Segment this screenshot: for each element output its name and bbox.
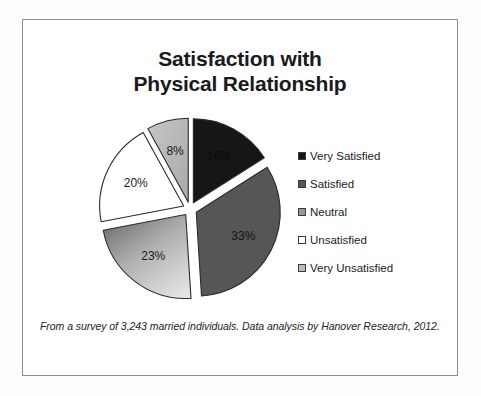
legend-swatch-icon bbox=[298, 208, 306, 216]
legend-swatch-icon bbox=[298, 236, 306, 244]
legend-swatch-icon bbox=[298, 152, 306, 160]
legend-item-label: Neutral bbox=[310, 206, 347, 218]
pie-slice-label: 16% bbox=[207, 149, 231, 163]
legend-swatch-icon bbox=[298, 264, 306, 272]
pie-slice-label: 20% bbox=[124, 176, 148, 190]
legend-item[interactable]: Satisfied bbox=[298, 170, 448, 198]
footnote-text: From a survey of 3,243 married individua… bbox=[40, 320, 444, 332]
legend-item[interactable]: Very Unsatisfied bbox=[298, 254, 448, 282]
pie-slices bbox=[100, 118, 281, 298]
title-line-1: Satisfaction with bbox=[158, 47, 321, 70]
legend-item-label: Unsatisfied bbox=[310, 234, 367, 246]
legend-item-label: Satisfied bbox=[310, 178, 354, 190]
pie-slice-label: 23% bbox=[141, 249, 165, 263]
legend-item[interactable]: Unsatisfied bbox=[298, 226, 448, 254]
pie-chart-svg: 16%33%23%20%8% bbox=[90, 112, 290, 307]
legend-item-label: Very Satisfied bbox=[310, 150, 380, 162]
legend-swatch-icon bbox=[298, 180, 306, 188]
pie-chart: 16%33%23%20%8% bbox=[90, 112, 290, 307]
pie-slice-label: 33% bbox=[231, 229, 255, 243]
pie-slice-label: 8% bbox=[166, 144, 184, 158]
legend-item[interactable]: Neutral bbox=[298, 198, 448, 226]
page-title: Satisfaction with Physical Relationship bbox=[22, 46, 458, 96]
chart-legend: Very SatisfiedSatisfiedNeutralUnsatisfie… bbox=[298, 142, 448, 282]
legend-item-label: Very Unsatisfied bbox=[310, 262, 393, 274]
chart-area: 16%33%23%20%8% Very SatisfiedSatisfiedNe… bbox=[22, 112, 458, 307]
legend-item[interactable]: Very Satisfied bbox=[298, 142, 448, 170]
title-line-2: Physical Relationship bbox=[22, 71, 458, 96]
